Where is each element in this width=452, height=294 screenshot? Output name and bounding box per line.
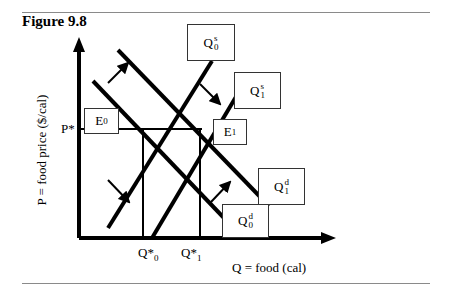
- y-axis-arrow-icon: [73, 37, 85, 52]
- price-tick-label: P*: [61, 121, 75, 137]
- supply-1-label-box: Qs1: [234, 72, 281, 109]
- x-axis-arrow-icon: [321, 232, 336, 244]
- q1-tick-label: Q*1: [181, 245, 201, 263]
- equilibrium-0-label-box: E0: [84, 108, 119, 134]
- y-axis-label: P = food price ($/cal): [34, 70, 50, 230]
- demand-0-label-box: Qd0: [222, 204, 269, 238]
- demand-shift-arrow-lower-icon: [211, 182, 230, 202]
- supply-shift-arrow-lower-icon: [108, 180, 129, 202]
- supply-shift-arrow-upper-icon: [200, 84, 220, 104]
- demand-1-label-box: Qd1: [258, 168, 305, 205]
- equilibrium-1-label-box: E1: [213, 119, 247, 145]
- supply-0-label-box: Qs0: [187, 24, 235, 61]
- x-axis-label: Q = food (cal): [232, 260, 306, 276]
- supply-curve-0: [108, 61, 212, 228]
- demand-shift-arrow-upper-icon: [108, 63, 128, 83]
- q0-tick-label: Q*0: [138, 245, 158, 263]
